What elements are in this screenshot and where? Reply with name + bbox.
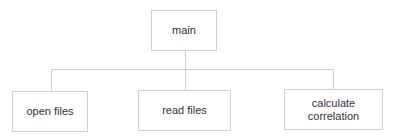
connector-horizontal-bus <box>51 69 334 70</box>
node-read-files-label: read files <box>162 104 207 117</box>
connector-calculate-correlation <box>333 69 334 89</box>
node-calculate-correlation-label-line1: calculate <box>312 97 355 110</box>
node-calculate-correlation-label-line2: correlation <box>308 110 359 123</box>
node-read-files: read files <box>138 90 231 131</box>
node-main: main <box>151 10 217 51</box>
node-open-files: open files <box>12 91 88 132</box>
node-calculate-correlation: calculate correlation <box>284 89 383 130</box>
connector-open-files <box>51 69 52 91</box>
node-main-label: main <box>172 24 196 37</box>
connector-root-down <box>185 51 186 69</box>
node-open-files-label: open files <box>26 105 73 118</box>
connector-read-files <box>185 69 186 90</box>
